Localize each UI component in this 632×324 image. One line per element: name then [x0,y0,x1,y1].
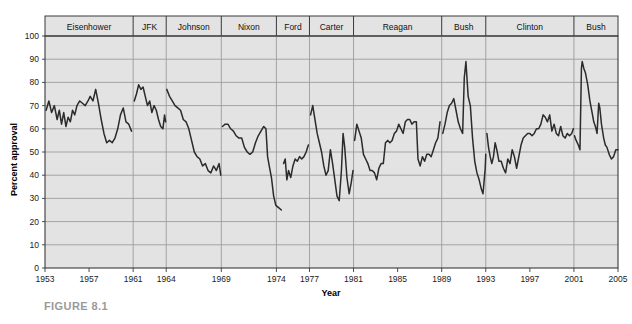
administration-label-ford-1974: Ford [284,22,302,32]
administration-label-jfk-1961: JFK [142,22,157,32]
y-tick-label: 40 [30,170,40,180]
x-tick-label: 1953 [36,274,55,284]
y-tick-label: 50 [30,147,40,157]
y-tick-label: 90 [30,54,40,64]
administration-label-eisenhower-1953: Eisenhower [67,22,112,32]
x-tick-label: 1985 [388,274,407,284]
x-tick-label: 2005 [609,274,628,284]
y-axis-title: Percent approval [9,123,19,196]
y-tick-label: 100 [25,31,39,41]
x-tick-label: 1957 [80,274,99,284]
administration-label-carter-1977: Carter [320,22,344,32]
x-axis-title: Year [321,288,341,298]
x-tick-label: 1974 [267,274,286,284]
figure-8-1: 0102030405060708090100 19531957196119641… [0,0,632,324]
x-axis-tick-marks [45,268,618,272]
administration-label-bush-1989: Bush [454,22,474,32]
x-tick-label: 1993 [476,274,495,284]
x-tick-label: 1961 [124,274,143,284]
y-axis-tick-labels: 0102030405060708090100 [25,31,39,273]
administration-labels: EisenhowerJFKJohnsonNixonFordCarterReaga… [67,22,606,32]
presidential-approval-chart: 0102030405060708090100 19531957196119641… [0,0,632,300]
y-tick-label: 60 [30,124,40,134]
x-axis-tick-labels: 1953195719611964196919741977198119851989… [36,274,628,284]
administration-label-clinton-1993: Clinton [517,22,544,32]
administration-label-nixon-1969: Nixon [238,22,260,32]
figure-caption: FIGURE 8.1 [44,300,108,312]
x-tick-label: 1977 [300,274,319,284]
x-tick-label: 1969 [212,274,231,284]
y-tick-label: 20 [30,217,40,227]
y-tick-label: 10 [30,240,40,250]
administration-label-bush-2001: Bush [586,22,606,32]
y-tick-label: 70 [30,101,40,111]
y-tick-label: 80 [30,77,40,87]
x-tick-label: 1981 [344,274,363,284]
x-tick-label: 1964 [157,274,176,284]
x-tick-label: 1989 [432,274,451,284]
y-tick-label: 30 [30,193,40,203]
administration-label-reagan-1981: Reagan [383,22,413,32]
y-tick-label: 0 [34,263,39,273]
x-tick-label: 1997 [520,274,539,284]
x-tick-label: 2001 [564,274,583,284]
administration-label-johnson-1964: Johnson [178,22,210,32]
